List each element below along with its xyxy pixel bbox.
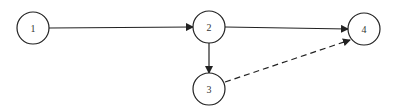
node-4: 4 — [348, 13, 380, 45]
node-1: 1 — [17, 12, 49, 44]
edge-1-2 — [49, 27, 193, 28]
node-3-label: 3 — [207, 84, 212, 95]
edge-2-4 — [225, 27, 348, 29]
node-3: 3 — [193, 73, 225, 105]
network-diagram: 1 2 3 4 — [0, 0, 397, 112]
edge-3-4-dashed — [225, 40, 350, 82]
node-1-label: 1 — [31, 23, 36, 34]
node-2-label: 2 — [207, 22, 212, 33]
node-2: 2 — [193, 11, 225, 43]
node-4-label: 4 — [362, 24, 367, 35]
